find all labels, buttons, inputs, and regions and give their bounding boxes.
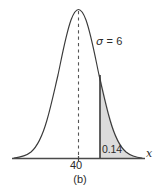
tail-area-value-label: 0.14 [102, 144, 122, 155]
normal-distribution-figure: σ = 6 0.14 40 x (b) [0, 0, 160, 192]
figure-caption: (b) [0, 174, 160, 185]
sigma-value: = 6 [103, 35, 122, 47]
sigma-annotation: σ = 6 [96, 36, 123, 47]
x-axis-label: x [146, 148, 152, 159]
mean-tick-label: 40 [70, 160, 82, 171]
